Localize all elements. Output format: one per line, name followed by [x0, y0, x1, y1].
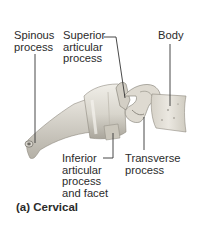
label-inferior-articular-process: Inferior articular process and facet	[62, 153, 108, 199]
vertebral-body-shape	[151, 94, 186, 132]
label-superior-articular-process: Superior articular process	[63, 30, 105, 65]
label-transverse-process: Transverse process	[125, 153, 181, 176]
figure-caption: (a) Cervical	[16, 201, 78, 213]
label-body: Body	[158, 30, 184, 42]
label-spinous-process: Spinous process	[14, 30, 54, 53]
inferior-articular-process-shape	[104, 124, 120, 140]
